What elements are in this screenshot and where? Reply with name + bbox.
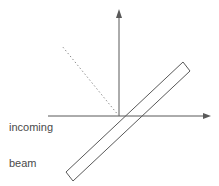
- incoming-beam-label: incoming beam: [9, 97, 53, 186]
- tilted-slab: [66, 62, 190, 181]
- reflected-ray: [62, 46, 119, 116]
- incoming-beam-label-line2: beam: [9, 157, 53, 169]
- incoming-beam-label-line1: incoming: [9, 121, 53, 133]
- normal-arrow: [116, 9, 122, 116]
- normal-arrowhead-icon: [116, 9, 122, 18]
- incoming-beam-arrowhead-icon: [203, 113, 211, 119]
- optics-diagram: incoming beam: [0, 0, 219, 186]
